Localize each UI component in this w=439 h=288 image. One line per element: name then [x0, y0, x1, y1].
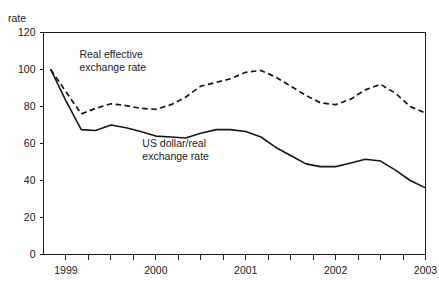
x-tick-label: 1999 [54, 264, 78, 276]
y-tick-label: 80 [24, 100, 36, 112]
us-dollar-real-exchange-rate-label: exchange rate [142, 150, 209, 162]
y-tick-label: 100 [18, 63, 36, 75]
series-line-us-dollar-real-exchange-rate [51, 70, 426, 188]
annotation-layer: Real effectiveexchange rateUS dollar/rea… [79, 48, 209, 162]
y-axis: 020406080100120 [18, 26, 44, 260]
series-layer [51, 70, 426, 188]
x-tick-label: 2003 [414, 264, 438, 276]
x-tick-label: 2000 [144, 264, 168, 276]
y-tick-label: 40 [24, 174, 36, 186]
y-tick-label: 120 [18, 26, 36, 38]
y-tick-label: 0 [30, 248, 36, 260]
series-line-real-effective-exchange-rate [51, 70, 426, 114]
x-tick-label: 2001 [234, 264, 258, 276]
x-axis: 19992000200120022003 [54, 255, 437, 276]
us-dollar-real-exchange-rate-label: US dollar/real [142, 137, 206, 149]
line-chart: rate 020406080100120 1999200020012002200… [0, 0, 439, 288]
y-axis-caption: rate [8, 12, 26, 24]
y-tick-label: 60 [24, 137, 36, 149]
real-effective-exchange-rate-label: exchange rate [79, 61, 146, 73]
x-tick-label: 2002 [324, 264, 348, 276]
real-effective-exchange-rate-label: Real effective [79, 48, 143, 60]
y-tick-label: 20 [24, 211, 36, 223]
chart-container: rate 020406080100120 1999200020012002200… [0, 0, 439, 288]
